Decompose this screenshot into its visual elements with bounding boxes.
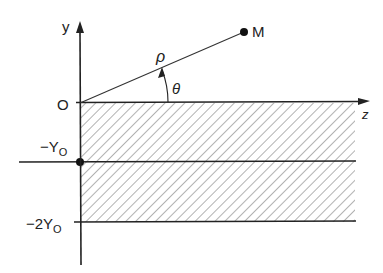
hatched-layer xyxy=(80,103,355,222)
y-axis-label: y xyxy=(62,18,70,35)
z-axis-arrow-icon xyxy=(358,98,370,105)
diagram-canvas: y z O M ρ θ −YO −2YO xyxy=(0,0,383,273)
point-m xyxy=(240,28,248,36)
z-axis-label: z xyxy=(361,107,369,122)
line-minus-y0 xyxy=(19,161,356,162)
minus-y0-label: −YO xyxy=(40,138,68,158)
line-minus-2y0 xyxy=(74,221,356,222)
theta-label: θ xyxy=(172,80,180,97)
point-m-label: M xyxy=(252,23,265,40)
minus-2y0-label: −2YO xyxy=(26,215,62,235)
y-axis-arrow-icon xyxy=(76,21,84,33)
origin-label: O xyxy=(57,96,69,113)
rho-label: ρ xyxy=(155,48,165,65)
